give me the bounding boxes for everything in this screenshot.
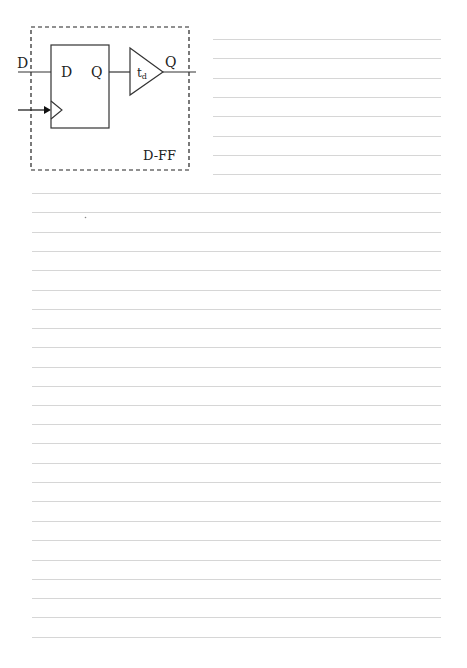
flipflop-d-pin-label: D — [61, 64, 72, 80]
stray-dot — [85, 217, 87, 219]
delay-label-subscript: d — [142, 72, 147, 81]
flipflop-box — [51, 45, 109, 128]
input-d-label: D — [17, 55, 28, 71]
flipflop-q-pin-label: Q — [91, 64, 102, 80]
clock-arrowhead-icon — [44, 106, 51, 114]
output-q-label: Q — [165, 54, 176, 70]
module-title: D-FF — [143, 148, 176, 163]
full-ruled-lines — [32, 194, 441, 638]
short-ruled-lines — [213, 40, 441, 175]
